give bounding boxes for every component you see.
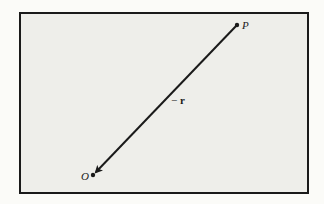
vector-label-minus: − — [171, 94, 177, 106]
vector-label: − r — [171, 95, 185, 106]
vector-diagram — [0, 0, 324, 204]
point-o-dot — [91, 173, 95, 177]
vector-minus-r — [96, 25, 237, 172]
point-p-label: P — [242, 20, 249, 31]
point-o-label: O — [81, 171, 89, 182]
point-p-dot — [235, 23, 239, 27]
vector-label-r: r — [180, 94, 185, 106]
